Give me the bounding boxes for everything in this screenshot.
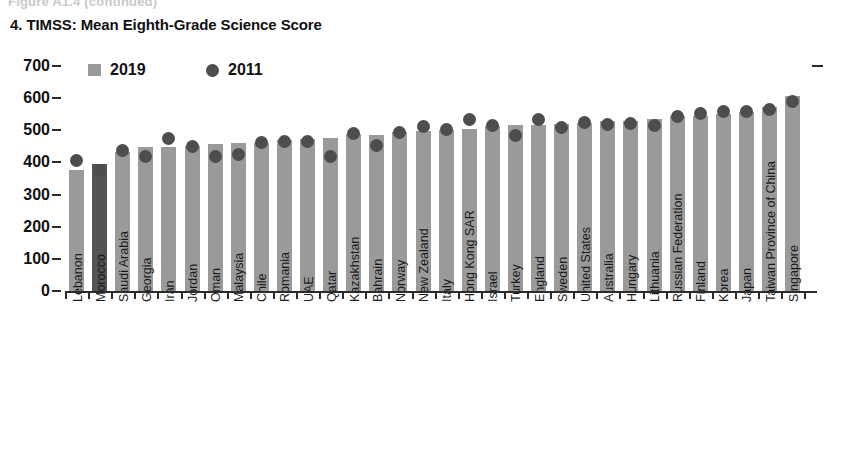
x-tick-7 bbox=[227, 292, 229, 299]
x-label-oman: Oman bbox=[210, 268, 223, 302]
x-label-taiwan-province-of-china: Taiwan Province of China bbox=[765, 161, 778, 302]
x-label-england: England bbox=[534, 256, 547, 302]
x-tick-24 bbox=[619, 292, 621, 299]
dot-russian-federation bbox=[671, 110, 684, 123]
dot-japan bbox=[740, 105, 753, 118]
dot-new-zealand bbox=[417, 120, 430, 133]
x-tick-23 bbox=[596, 292, 598, 299]
x-label-chile: Chile bbox=[256, 274, 269, 303]
x-label-singapore: Singapore bbox=[788, 245, 801, 302]
y-axis-labels: 7006005004003002001000 bbox=[0, 0, 50, 471]
x-tick-2 bbox=[111, 292, 113, 299]
x-tick-26 bbox=[666, 292, 668, 299]
x-label-hungary: Hungary bbox=[626, 255, 639, 302]
x-label-hong-kong-sar: Hong Kong SAR bbox=[464, 210, 477, 302]
y-tick-100 bbox=[52, 258, 61, 260]
y-tick-500 bbox=[52, 129, 61, 131]
x-label-israel: Israel bbox=[487, 271, 500, 302]
bar-chile bbox=[254, 143, 269, 292]
x-tick-11 bbox=[319, 292, 321, 299]
dot-iran bbox=[162, 132, 175, 145]
x-tick-16 bbox=[435, 292, 437, 299]
x-label-russian-federation: Russian Federation bbox=[672, 194, 685, 302]
x-tick-8 bbox=[250, 292, 252, 299]
y-tick-label-600: 600 bbox=[6, 90, 50, 106]
x-tick-14 bbox=[388, 292, 390, 299]
y-tick-0 bbox=[52, 290, 61, 292]
x-label-jordan: Jordan bbox=[187, 264, 200, 302]
x-tick-19 bbox=[504, 292, 506, 299]
bar-iran bbox=[161, 147, 176, 291]
x-tick-0 bbox=[65, 292, 67, 299]
x-label-romania: Romania bbox=[279, 252, 292, 302]
y-tick-label-400: 400 bbox=[6, 154, 50, 170]
y-tick-label-200: 200 bbox=[6, 219, 50, 235]
x-tick-15 bbox=[412, 292, 414, 299]
x-tick-30 bbox=[758, 292, 760, 299]
x-tick-28 bbox=[712, 292, 714, 299]
x-tick-20 bbox=[527, 292, 529, 299]
x-label-lithuania: Lithuania bbox=[649, 251, 662, 302]
dot-hong-kong-sar bbox=[463, 113, 476, 126]
dot-qatar bbox=[324, 150, 337, 163]
x-tick-4 bbox=[157, 292, 159, 299]
x-label-bahrain: Bahrain bbox=[372, 259, 385, 302]
x-tick-end bbox=[804, 292, 806, 299]
y-tick-label-500: 500 bbox=[6, 122, 50, 138]
x-tick-29 bbox=[735, 292, 737, 299]
bar-uae bbox=[300, 139, 315, 291]
dot-lebanon bbox=[70, 154, 83, 167]
dot-morocco bbox=[93, 164, 106, 177]
dot-united-states bbox=[578, 116, 591, 129]
x-label-malaysia: Malaysia bbox=[233, 253, 246, 302]
dot-georgia bbox=[139, 150, 152, 163]
dot-sweden bbox=[555, 121, 568, 134]
x-label-korea: Korea bbox=[718, 269, 731, 302]
legend-circle-icon bbox=[206, 64, 219, 77]
legend-label-2019: 2019 bbox=[110, 61, 146, 79]
dot-malaysia bbox=[232, 148, 245, 161]
legend-item-2019: 2019 bbox=[88, 60, 146, 80]
x-label-uae: UAE bbox=[303, 276, 316, 302]
dot-finland bbox=[694, 107, 707, 120]
x-tick-1 bbox=[88, 292, 90, 299]
chart-plot-area: 7006005004003002001000 2019 2011 Lebanon… bbox=[0, 0, 844, 471]
x-tick-27 bbox=[689, 292, 691, 299]
dot-lithuania bbox=[648, 119, 661, 132]
x-label-japan: Japan bbox=[741, 268, 754, 302]
x-axis-line bbox=[65, 291, 817, 293]
legend-item-2011: 2011 bbox=[206, 60, 263, 80]
bar-italy bbox=[439, 130, 454, 291]
y-tick-400 bbox=[52, 161, 61, 163]
x-tick-13 bbox=[365, 292, 367, 299]
bar-korea bbox=[716, 114, 731, 291]
dot-romania bbox=[278, 135, 291, 148]
x-label-finland: Finland bbox=[695, 261, 708, 302]
dot-singapore bbox=[786, 95, 799, 108]
x-tick-5 bbox=[181, 292, 183, 299]
x-label-qatar: Qatar bbox=[326, 271, 339, 302]
y-tick-label-300: 300 bbox=[6, 187, 50, 203]
x-tick-9 bbox=[273, 292, 275, 299]
dot-korea bbox=[717, 105, 730, 118]
x-tick-22 bbox=[573, 292, 575, 299]
x-label-sweden: Sweden bbox=[557, 257, 570, 302]
y-tick-700 bbox=[52, 65, 61, 67]
right-edge-tick bbox=[812, 65, 823, 67]
x-label-turkey: Turkey bbox=[510, 264, 523, 302]
x-tick-3 bbox=[134, 292, 136, 299]
x-tick-31 bbox=[781, 292, 783, 299]
x-label-norway: Norway bbox=[395, 260, 408, 302]
dot-italy bbox=[440, 123, 453, 136]
x-label-lebanon: Lebanon bbox=[72, 253, 85, 302]
x-tick-10 bbox=[296, 292, 298, 299]
y-tick-600 bbox=[52, 97, 61, 99]
dot-israel bbox=[486, 119, 499, 132]
x-label-australia: Australia bbox=[603, 253, 616, 302]
y-tick-300 bbox=[52, 194, 61, 196]
x-tick-21 bbox=[550, 292, 552, 299]
legend-square-icon bbox=[88, 64, 101, 76]
dot-uae bbox=[301, 135, 314, 148]
y-tick-label-0: 0 bbox=[6, 283, 50, 299]
dot-oman bbox=[209, 150, 222, 163]
